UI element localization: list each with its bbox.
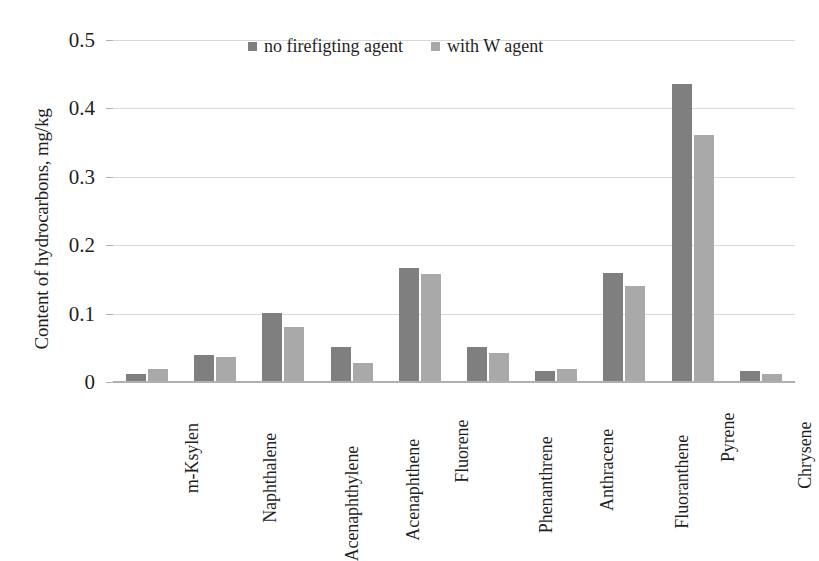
x-axis-label: Naphthalene bbox=[260, 433, 281, 523]
y-tick-mark bbox=[106, 177, 113, 178]
y-tick-label: 0.2 bbox=[69, 235, 95, 256]
bars-layer bbox=[113, 40, 795, 382]
bar bbox=[331, 347, 351, 382]
x-axis-label: Chrysene bbox=[794, 422, 815, 489]
bar-group bbox=[727, 40, 795, 382]
x-axis-label: Phenanthrene bbox=[536, 436, 557, 533]
x-axis-label: Anthracene bbox=[597, 429, 618, 511]
x-axis-line bbox=[113, 381, 795, 382]
y-tick-mark bbox=[106, 108, 113, 109]
x-axis-label: m-Ksylen bbox=[182, 423, 203, 493]
y-tick-label: 0.1 bbox=[69, 303, 95, 324]
bar bbox=[353, 363, 373, 382]
x-axis-label: Fluoranthene bbox=[671, 435, 692, 529]
bar bbox=[467, 347, 487, 382]
bar-group bbox=[318, 40, 386, 382]
bar-group bbox=[181, 40, 249, 382]
bar bbox=[694, 135, 714, 382]
legend-label: no firefigting agent bbox=[264, 36, 403, 57]
y-tick-mark bbox=[106, 314, 113, 315]
bar-group bbox=[590, 40, 658, 382]
y-tick-mark bbox=[106, 245, 113, 246]
x-axis-label: Acenaphthylene bbox=[341, 446, 362, 561]
bar-group bbox=[386, 40, 454, 382]
y-tick-label: 0.4 bbox=[69, 98, 95, 119]
legend-item: with W agent bbox=[431, 36, 543, 57]
bar bbox=[284, 327, 304, 382]
bar bbox=[399, 268, 419, 382]
y-tick-mark bbox=[106, 40, 113, 41]
legend-swatch-icon bbox=[431, 42, 440, 51]
bar bbox=[603, 273, 623, 382]
bar-group bbox=[522, 40, 590, 382]
bar bbox=[194, 355, 214, 382]
bar-group bbox=[249, 40, 317, 382]
x-axis-labels: m-KsylenNaphthaleneAcenaphthyleneAcenaph… bbox=[113, 388, 795, 553]
bar-group bbox=[659, 40, 727, 382]
bar bbox=[421, 274, 441, 382]
bar bbox=[625, 286, 645, 382]
y-tick-label: 0.5 bbox=[69, 30, 95, 51]
bar bbox=[216, 357, 236, 382]
legend-label: with W agent bbox=[447, 36, 543, 57]
bar-group bbox=[454, 40, 522, 382]
bar bbox=[262, 313, 282, 382]
legend: no firefigting agentwith W agent bbox=[248, 36, 543, 57]
y-axis-ticks: 00.10.20.30.40.5 bbox=[0, 0, 113, 556]
y-tick-label: 0.3 bbox=[69, 166, 95, 187]
bar bbox=[672, 84, 692, 382]
x-axis-label: Pyrene bbox=[717, 413, 738, 462]
x-axis-label: Fluorene bbox=[451, 420, 472, 483]
gridline bbox=[113, 382, 795, 383]
x-axis-label: Acenaphthene bbox=[403, 439, 424, 541]
plot-area bbox=[113, 40, 795, 382]
legend-item: no firefigting agent bbox=[248, 36, 403, 57]
bar bbox=[489, 353, 509, 382]
bar-group bbox=[113, 40, 181, 382]
legend-swatch-icon bbox=[248, 42, 257, 51]
y-tick-label: 0 bbox=[85, 372, 96, 393]
y-tick-mark bbox=[106, 382, 113, 383]
